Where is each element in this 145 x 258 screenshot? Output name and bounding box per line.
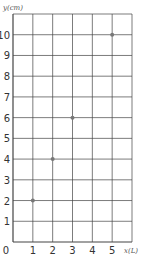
y-tick-label: 4 bbox=[4, 154, 10, 165]
x-tick-label: 4 bbox=[89, 245, 95, 256]
y-tick-label: 7 bbox=[4, 92, 10, 103]
data-point bbox=[31, 199, 35, 203]
x-tick-label: 5 bbox=[109, 245, 115, 256]
y-tick-label: 5 bbox=[4, 133, 10, 144]
y-tick-label: 3 bbox=[4, 175, 10, 186]
scatter-chart: 12345678910012345y(cm)x(L) bbox=[0, 0, 145, 258]
data-point bbox=[110, 33, 114, 37]
axis-labels: 12345678910012345y(cm)x(L) bbox=[0, 4, 138, 256]
y-tick-label: 6 bbox=[4, 113, 10, 124]
y-tick-label: 2 bbox=[4, 196, 10, 207]
x-tick-label: 3 bbox=[69, 245, 75, 256]
data-point bbox=[71, 116, 75, 120]
y-tick-label: 8 bbox=[4, 71, 10, 82]
x-tick-label: 2 bbox=[49, 245, 55, 256]
y-tick-label: 1 bbox=[4, 216, 10, 227]
x-tick-label: 0 bbox=[3, 245, 9, 256]
grid-lines bbox=[13, 14, 132, 242]
y-tick-label: 10 bbox=[0, 30, 10, 41]
x-axis-title: x(L) bbox=[124, 247, 138, 255]
data-point bbox=[51, 157, 55, 161]
y-axis-title: y(cm) bbox=[2, 4, 23, 12]
x-tick-label: 1 bbox=[30, 245, 36, 256]
y-tick-label: 9 bbox=[4, 50, 10, 61]
